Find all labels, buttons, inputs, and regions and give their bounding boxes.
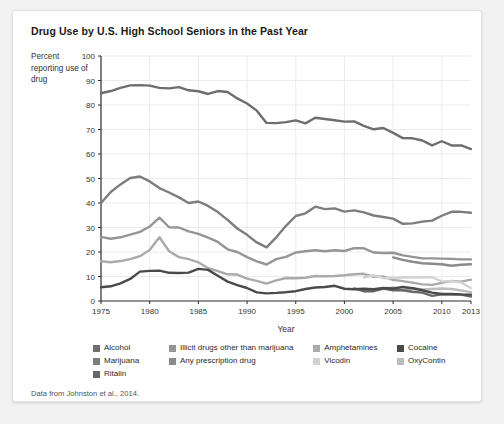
legend-item-oxycontin[interactable]: OxyContin (397, 356, 473, 366)
x-tick-label: 1975 (92, 307, 110, 316)
y-tick-label: 70 (86, 126, 95, 135)
y-tick-label: 20 (86, 248, 95, 257)
legend-row: Ritalin (93, 369, 473, 379)
legend-label: Alcohol (104, 343, 130, 353)
y-tick-label: 0 (91, 297, 96, 306)
legend-label: Amphetamines (324, 343, 377, 353)
x-tick-label: 2013 (462, 307, 480, 316)
legend-swatch-icon (169, 345, 176, 352)
legend-label: Illicit drugs other than marijuana (180, 343, 293, 353)
chart-figure-card: Drug Use by U.S. High School Seniors in … (12, 10, 482, 402)
legend-label: Vicodin (324, 356, 350, 366)
legend-label: Cocaine (408, 343, 437, 353)
series-line-vicodin[interactable] (364, 275, 471, 288)
legend-item-amphetamines[interactable]: Amphetamines (313, 343, 397, 353)
legend-row: AlcoholIllicit drugs other than marijuan… (93, 343, 473, 353)
y-tick-label: 100 (82, 52, 96, 61)
legend-item-alcohol[interactable]: Alcohol (93, 343, 169, 353)
legend-label: OxyContin (408, 356, 445, 366)
legend-swatch-icon (93, 371, 100, 378)
series-line-marijuana[interactable] (101, 177, 471, 248)
legend-label: Ritalin (104, 369, 126, 379)
legend-swatch-icon (397, 345, 404, 352)
legend-item-marijuana[interactable]: Marijuana (93, 356, 169, 366)
x-tick-label: 2010 (433, 307, 451, 316)
line-chart-svg: 0102030405060708090100197519801985199019… (13, 11, 483, 341)
legend-swatch-icon (313, 345, 320, 352)
y-tick-label: 10 (86, 273, 95, 282)
x-axis-title: Year (278, 324, 295, 334)
legend-swatch-icon (93, 345, 100, 352)
legend-item-illicit-drugs-other-than-marijuana[interactable]: Illicit drugs other than marijuana (169, 343, 313, 353)
x-tick-label: 1990 (238, 307, 256, 316)
x-tick-label: 1985 (189, 307, 207, 316)
legend-swatch-icon (169, 358, 176, 365)
x-tick-label: 1980 (141, 307, 159, 316)
series-line-cocaine[interactable] (101, 269, 471, 295)
legend-item-ritalin[interactable]: Ritalin (93, 369, 171, 379)
legend-label: Marijuana (104, 356, 139, 366)
legend-swatch-icon (313, 358, 320, 365)
chart-legend: AlcoholIllicit drugs other than marijuan… (93, 343, 473, 382)
x-tick-label: 1995 (287, 307, 305, 316)
y-tick-label: 40 (86, 199, 95, 208)
legend-item-cocaine[interactable]: Cocaine (397, 343, 473, 353)
legend-swatch-icon (397, 358, 404, 365)
series-line-alcohol[interactable] (101, 85, 471, 149)
legend-swatch-icon (93, 358, 100, 365)
x-tick-label: 2000 (336, 307, 354, 316)
y-tick-label: 30 (86, 224, 95, 233)
legend-label: Any prescription drug (180, 356, 256, 366)
legend-row: MarijuanaAny prescription drugVicodinOxy… (93, 356, 473, 366)
y-tick-label: 80 (86, 101, 95, 110)
source-note: Data from Johnston et al., 2014. (31, 389, 139, 398)
x-tick-label: 2005 (384, 307, 402, 316)
legend-item-any-prescription-drug[interactable]: Any prescription drug (169, 356, 313, 366)
y-tick-label: 50 (86, 175, 95, 184)
legend-item-vicodin[interactable]: Vicodin (313, 356, 397, 366)
y-tick-label: 90 (86, 77, 95, 86)
y-tick-label: 60 (86, 150, 95, 159)
